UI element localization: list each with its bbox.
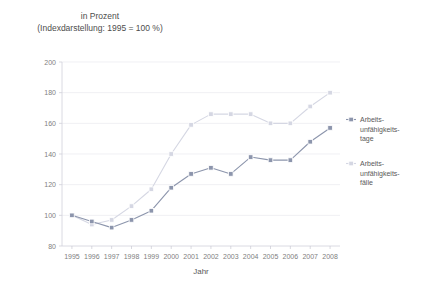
x-tick-label: 2006 [283, 253, 299, 260]
data-point-marker [209, 112, 214, 117]
gridlines [62, 62, 340, 215]
series-line [72, 128, 330, 228]
data-point-marker [228, 172, 233, 177]
data-point-marker [109, 225, 114, 230]
y-tick-label: 120 [44, 181, 56, 188]
x-tick-label: 1999 [144, 253, 160, 260]
legend-marker [349, 117, 354, 122]
data-point-marker [209, 166, 214, 171]
x-tick-label: 2004 [243, 253, 259, 260]
legend-label[interactable]: unfähigkeits- [360, 170, 400, 178]
y-tick-label: 80 [48, 243, 56, 250]
legend-label[interactable]: fälle [360, 179, 373, 186]
data-point-marker [228, 112, 233, 117]
legend-label[interactable]: Arbeits- [360, 160, 385, 167]
y-tick-labels: 80100120140160180200 [44, 59, 56, 250]
x-tick-label: 2005 [263, 253, 279, 260]
x-tick-labels: 1995199619971998199920002001200220032004… [64, 253, 338, 260]
data-point-marker [308, 104, 313, 109]
data-point-marker [248, 112, 253, 117]
chart-page: in Prozent (Indexdarstellung: 1995 = 100… [0, 0, 432, 298]
legend-marker [349, 161, 354, 166]
data-series [70, 90, 333, 230]
data-point-marker [288, 121, 293, 126]
legend-label[interactable]: tage [360, 135, 374, 143]
x-axis-title: Jahr [193, 267, 209, 276]
axes [59, 62, 340, 249]
data-point-marker [268, 121, 273, 126]
x-tick-label: 1998 [124, 253, 140, 260]
data-point-marker [248, 155, 253, 160]
data-point-marker [129, 218, 134, 223]
x-tick-label: 2000 [163, 253, 179, 260]
legend-label[interactable]: unfähigkeits- [360, 126, 400, 134]
y-tick-label: 200 [44, 59, 56, 66]
data-point-marker [328, 126, 333, 131]
y-tick-label: 180 [44, 89, 56, 96]
data-point-marker [129, 204, 134, 209]
data-point-marker [328, 90, 333, 95]
y-tick-label: 140 [44, 151, 56, 158]
data-point-marker [149, 208, 154, 213]
x-tick-label: 2002 [203, 253, 219, 260]
x-tick-label: 2003 [223, 253, 239, 260]
data-point-marker [189, 123, 194, 128]
data-point-marker [70, 213, 75, 218]
plot-area: 80100120140160180200 1995199619971998199… [0, 0, 432, 298]
legend-label[interactable]: Arbeits- [360, 116, 385, 123]
line-chart-svg: 80100120140160180200 1995199619971998199… [0, 0, 432, 298]
x-tick-label: 2008 [322, 253, 338, 260]
data-point-marker [169, 185, 174, 190]
legend: Arbeits-unfähigkeits-tageArbeits-unfähig… [346, 116, 400, 186]
y-tick-label: 160 [44, 120, 56, 127]
data-point-marker [89, 219, 94, 224]
data-point-marker [308, 139, 313, 144]
x-tick-label: 1995 [64, 253, 80, 260]
x-tick-label: 1997 [104, 253, 120, 260]
data-point-marker [288, 158, 293, 163]
x-tick-label: 2007 [302, 253, 318, 260]
x-tick-label: 2001 [183, 253, 199, 260]
data-point-marker [268, 158, 273, 163]
data-point-marker [189, 172, 194, 177]
data-point-marker [169, 152, 174, 157]
y-tick-label: 100 [44, 212, 56, 219]
data-point-marker [109, 218, 114, 223]
data-point-marker [149, 187, 154, 192]
x-tick-label: 1996 [84, 253, 100, 260]
